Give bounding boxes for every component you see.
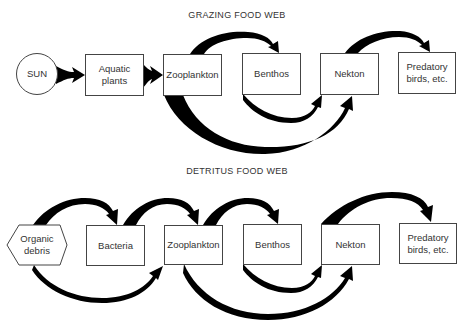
- food-web-diagram: [0, 0, 474, 321]
- node-benthos-label: Benthos: [254, 68, 289, 80]
- arrow-nekton-to-predatory-birds-detritus: [321, 192, 433, 224]
- node-zooplankton-label: Zooplankton: [167, 239, 219, 251]
- grazing-food-web-title: GRAZING FOOD WEB: [188, 10, 285, 20]
- node-benthos-grazing: Benthos: [242, 53, 301, 95]
- node-sun: SUN: [16, 53, 58, 95]
- node-nekton-detritus: Nekton: [321, 224, 380, 265]
- arrow-bacteria-to-zooplankton: [123, 198, 199, 225]
- node-predatory-birds-label: Predatory birds, etc.: [407, 232, 448, 256]
- arrow-zooplankton-to-benthos-detritus: [203, 198, 279, 225]
- arrow-organic-debris-to-bacteria: [33, 198, 118, 225]
- node-bacteria: Bacteria: [86, 225, 145, 266]
- node-predatory-birds-label: Predatory birds, etc.: [406, 61, 447, 85]
- node-predatory-birds-grazing: Predatory birds, etc.: [398, 52, 456, 94]
- node-benthos-detritus: Benthos: [243, 224, 302, 265]
- node-bacteria-label: Bacteria: [98, 240, 133, 252]
- node-zooplankton-grazing: Zooplankton: [163, 54, 222, 96]
- arrow-zooplankton-to-nekton-detritus: [183, 264, 353, 320]
- node-nekton-grazing: Nekton: [320, 53, 379, 95]
- node-organic-debris: Organic debris: [7, 225, 67, 265]
- node-aquatic-plants: Aquatic plants: [85, 54, 144, 96]
- arrow-organic-debris-to-zooplankton: [32, 265, 163, 303]
- node-zooplankton-label: Zooplankton: [166, 69, 218, 81]
- arrow-nekton-to-predatory-birds: [345, 31, 430, 53]
- node-nekton-label: Nekton: [334, 68, 364, 80]
- node-nekton-label: Nekton: [335, 239, 365, 251]
- node-sun-label: SUN: [27, 68, 47, 80]
- arrow-zooplankton-to-nekton: [164, 95, 353, 154]
- arrow-zooplankton-to-benthos: [190, 32, 279, 54]
- node-benthos-label: Benthos: [255, 239, 290, 251]
- detritus-food-web-title: DETRITUS FOOD WEB: [186, 166, 288, 176]
- arrow-benthos-to-nekton-detritus: [243, 264, 322, 293]
- arrow-benthos-to-nekton: [243, 94, 322, 123]
- arrow-sun-to-aquatic-plants: [56, 66, 85, 84]
- node-aquatic-plants-label: Aquatic plants: [99, 63, 131, 87]
- node-zooplankton-detritus: Zooplankton: [164, 225, 223, 265]
- arrow-aquatic-plants-to-zooplankton: [143, 64, 163, 88]
- node-predatory-birds-detritus: Predatory birds, etc.: [399, 223, 457, 264]
- node-organic-debris-label: Organic debris: [20, 233, 53, 257]
